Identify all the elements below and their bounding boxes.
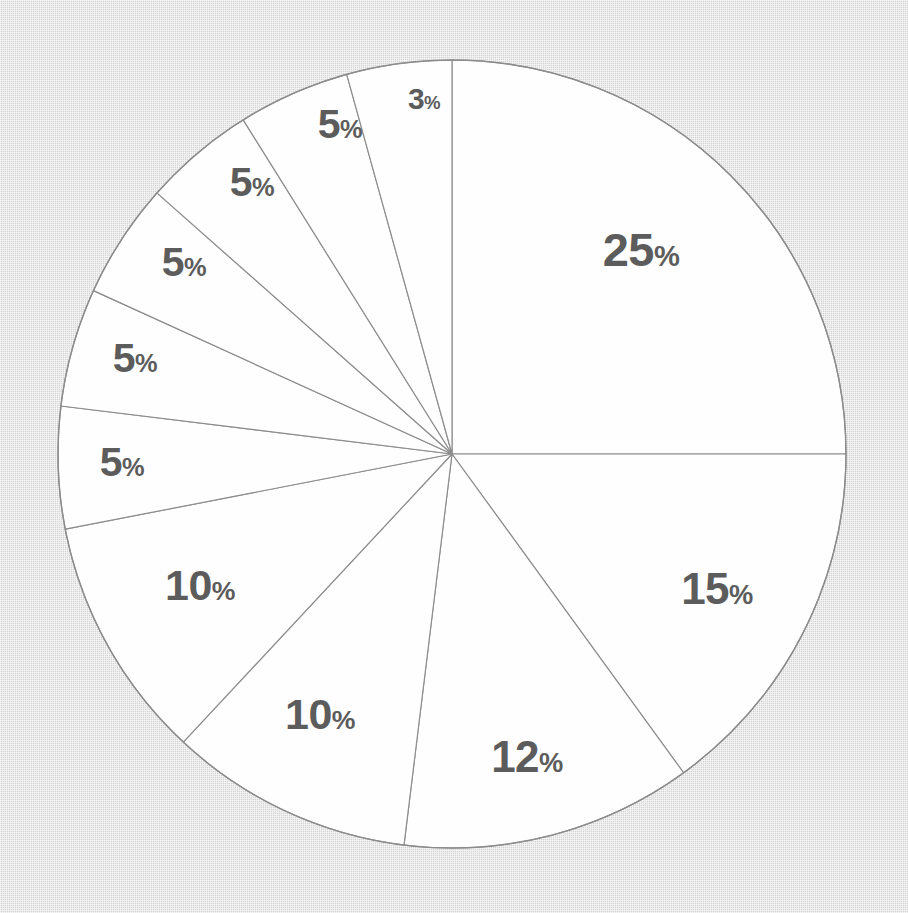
pie-slice-value: 25 — [603, 223, 654, 276]
pie-slice-group — [58, 60, 846, 848]
pie-slice-label: 5% — [100, 442, 144, 483]
pie-slice-label: 5% — [230, 162, 274, 203]
pie-slice-label: 10% — [165, 564, 235, 607]
pie-slice-label: 12% — [491, 735, 563, 779]
percent-symbol: % — [424, 92, 440, 113]
pie-slice-value: 12 — [491, 732, 539, 781]
pie-slice-value: 5 — [100, 439, 122, 485]
percent-symbol: % — [332, 705, 355, 735]
pie-slice-label: 10% — [285, 693, 355, 736]
pie-slice-label: 25% — [603, 226, 680, 273]
percent-symbol: % — [184, 253, 206, 281]
percent-symbol: % — [122, 453, 144, 481]
pie-slice-label: 3% — [408, 84, 440, 114]
percent-symbol: % — [654, 240, 679, 272]
percent-symbol: % — [729, 579, 753, 610]
percent-symbol: % — [252, 173, 274, 201]
percent-symbol: % — [135, 349, 157, 377]
percent-symbol: % — [539, 747, 563, 778]
pie-slice-value: 15 — [681, 564, 729, 613]
percent-symbol: % — [340, 115, 362, 143]
pie-slice-label: 5% — [113, 338, 157, 379]
pie-slice-value: 10 — [165, 561, 212, 609]
pie-slice-value: 5 — [162, 239, 184, 285]
pie-slice-label: 5% — [318, 104, 362, 145]
pie-slice-value: 10 — [285, 690, 332, 738]
percent-symbol: % — [212, 576, 235, 606]
pie-slice-value: 5 — [230, 159, 252, 205]
pie-slice-value: 3 — [408, 82, 424, 115]
pie-chart-canvas: 25%15%12%10%10%5%5%5%5%5%3% — [0, 0, 908, 913]
pie-slice-label: 5% — [162, 242, 206, 283]
pie-slice-label: 15% — [681, 567, 753, 611]
pie-slice-value: 5 — [318, 101, 340, 147]
pie-slice-value: 5 — [113, 335, 135, 381]
